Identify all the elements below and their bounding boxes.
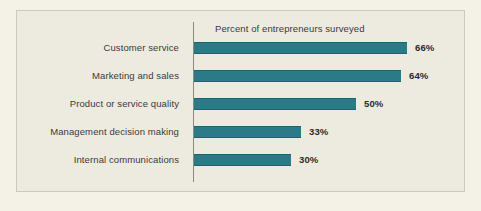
bar-track — [194, 98, 356, 110]
bar-management-decision-making — [194, 126, 301, 138]
bar-track — [194, 126, 301, 138]
category-label: Product or service quality — [70, 95, 179, 113]
bar-value-label: 66% — [415, 39, 434, 57]
bar-row: Customer service 66% — [17, 39, 464, 57]
bar-customer-service — [194, 42, 407, 54]
category-label: Internal communications — [74, 151, 179, 169]
bar-row: Internal communications 30% — [17, 151, 464, 169]
category-label: Marketing and sales — [92, 67, 179, 85]
bar-track — [194, 154, 291, 166]
chart-title: Percent of entrepreneurs surveyed — [215, 23, 365, 34]
chart-figure: Percent of entrepreneurs surveyed Custom… — [0, 0, 481, 211]
plot-area: Percent of entrepreneurs surveyed Custom… — [17, 11, 464, 191]
bar-value-label: 64% — [409, 67, 428, 85]
bar-row: Marketing and sales 64% — [17, 67, 464, 85]
bar-track — [194, 70, 401, 82]
bar-marketing-and-sales — [194, 70, 401, 82]
bar-value-label: 33% — [309, 123, 328, 141]
bar-internal-communications — [194, 154, 291, 166]
bar-product-or-service-quality — [194, 98, 356, 110]
category-label: Management decision making — [50, 123, 179, 141]
bar-value-label: 50% — [364, 95, 383, 113]
bar-track — [194, 42, 407, 54]
bar-row: Management decision making 33% — [17, 123, 464, 141]
bar-row: Product or service quality 50% — [17, 95, 464, 113]
bar-value-label: 30% — [299, 151, 318, 169]
category-label: Customer service — [103, 39, 179, 57]
chart-panel: Percent of entrepreneurs surveyed Custom… — [16, 10, 465, 192]
